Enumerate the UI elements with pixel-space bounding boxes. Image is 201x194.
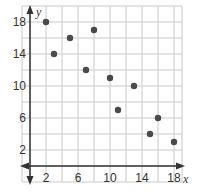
x-axis-arrow-left-icon <box>20 163 29 170</box>
y-tick-label: 6 <box>19 111 26 125</box>
y-axis-arrow-down-icon <box>27 176 34 185</box>
data-point <box>147 131 153 137</box>
y-tick-label: 18 <box>13 15 27 29</box>
data-point <box>155 115 161 121</box>
y-tick-label: 2 <box>19 143 26 157</box>
x-axis-arrow-right-icon <box>176 163 185 170</box>
x-tick-label: 14 <box>135 171 149 185</box>
scatter-plot: 2610141826101418 x y <box>0 0 201 194</box>
tick-labels: 2610141826101418 <box>13 15 181 185</box>
data-point <box>115 107 121 113</box>
data-point <box>107 75 113 81</box>
x-tick-label: 2 <box>43 171 50 185</box>
data-point <box>83 67 89 73</box>
y-tick-label: 10 <box>13 79 27 93</box>
y-axis-label: y <box>35 5 42 19</box>
x-axis-label: x <box>182 172 189 186</box>
data-point <box>43 19 49 25</box>
data-point <box>131 83 137 89</box>
axes <box>20 5 185 185</box>
data-point <box>51 51 57 57</box>
data-point <box>171 139 177 145</box>
y-tick-label: 14 <box>13 47 27 61</box>
data-point <box>91 27 97 33</box>
grid-lines <box>22 6 182 182</box>
x-tick-label: 10 <box>103 171 117 185</box>
x-tick-label: 6 <box>75 171 82 185</box>
x-tick-label: 18 <box>167 171 181 185</box>
data-point <box>67 35 73 41</box>
